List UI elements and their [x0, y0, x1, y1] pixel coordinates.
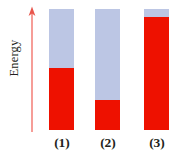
up-arrow-icon — [24, 4, 40, 136]
energy-bar-2 — [95, 9, 120, 130]
bar-1-empty-segment — [49, 9, 74, 68]
energy-axis: Energy — [0, 0, 46, 140]
energy-level-diagram: Energy (1) (2) (3) — [0, 0, 188, 155]
bar-2-filled-segment — [95, 100, 120, 130]
bar-2-caption: (2) — [92, 134, 124, 152]
bar-1-caption: (1) — [46, 134, 78, 152]
bar-3-empty-segment — [144, 9, 169, 17]
bar-3-filled-segment — [144, 17, 169, 130]
energy-axis-label: Energy — [6, 30, 22, 86]
bar-3-caption: (3) — [141, 134, 173, 152]
bar-1-filled-segment — [49, 68, 74, 130]
energy-bar-3 — [144, 9, 169, 130]
energy-bar-1 — [49, 9, 74, 130]
bar-2-empty-segment — [95, 9, 120, 100]
